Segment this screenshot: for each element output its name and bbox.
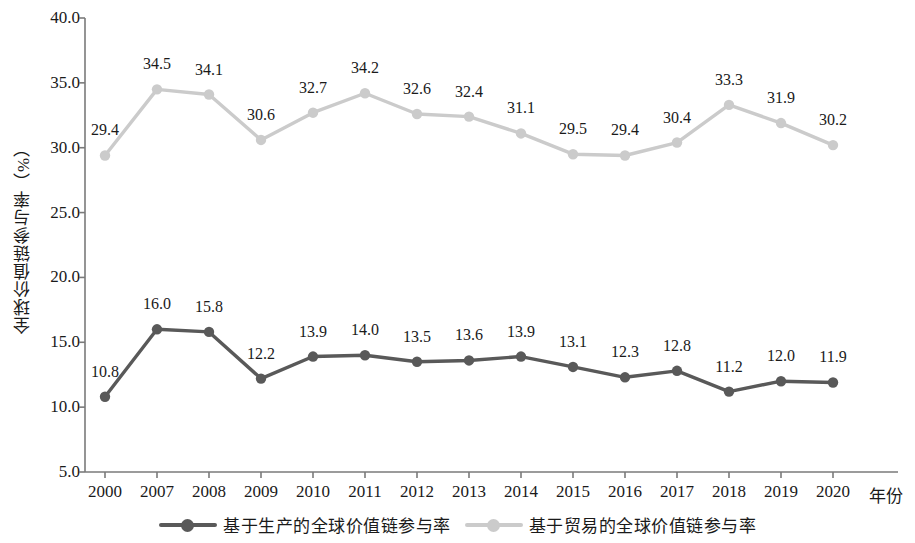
x-tick-label: 2018 — [712, 482, 746, 502]
data-point-label: 32.7 — [299, 79, 327, 97]
data-point-label: 12.2 — [247, 345, 275, 363]
x-tick-label: 2016 — [608, 482, 642, 502]
x-tick-label: 2008 — [192, 482, 226, 502]
data-point-label: 13.1 — [559, 333, 587, 351]
plot-area — [0, 0, 915, 543]
data-point-label: 13.9 — [299, 323, 327, 341]
legend-item-production[interactable]: 基于生产的全球价值链参与率 — [159, 512, 451, 537]
data-point-label: 12.0 — [767, 347, 795, 365]
data-point-label: 13.6 — [455, 326, 483, 344]
x-tick-label: 2000 — [88, 482, 122, 502]
x-tick-label: 2014 — [504, 482, 538, 502]
data-point-label: 10.8 — [91, 363, 119, 381]
data-point-label: 12.3 — [611, 343, 639, 361]
data-point-label: 16.0 — [143, 295, 171, 313]
data-point-label: 30.2 — [819, 111, 847, 129]
data-point-label: 13.9 — [507, 323, 535, 341]
legend-swatch-production — [159, 518, 217, 532]
x-tick-label: 2009 — [244, 482, 278, 502]
data-point-label: 13.5 — [403, 328, 431, 346]
chart-legend: 基于生产的全球价值链参与率 基于贸易的全球价值链参与率 — [0, 512, 915, 537]
data-point-label: 31.9 — [767, 89, 795, 107]
data-point-label: 32.4 — [455, 83, 483, 101]
x-tick-label: 2020 — [816, 482, 850, 502]
x-tick-label: 2013 — [452, 482, 486, 502]
data-point-label: 34.1 — [195, 61, 223, 79]
legend-swatch-trade — [465, 518, 523, 532]
data-point-label: 30.6 — [247, 106, 275, 124]
x-tick-label: 2007 — [140, 482, 174, 502]
data-point-label: 12.8 — [663, 337, 691, 355]
chart-container: 全球价值链参与率（%） 5.010.015.020.025.030.035.04… — [0, 0, 915, 543]
legend-label-production: 基于生产的全球价值链参与率 — [223, 512, 451, 537]
x-tick-label: 2010 — [296, 482, 330, 502]
data-point-label: 32.6 — [403, 80, 431, 98]
data-point-label: 34.5 — [143, 55, 171, 73]
data-point-label: 33.3 — [715, 71, 743, 89]
legend-item-trade[interactable]: 基于贸易的全球价值链参与率 — [465, 512, 757, 537]
data-point-label: 14.0 — [351, 321, 379, 339]
data-point-label: 11.9 — [819, 348, 846, 366]
x-axis-title: 年份 — [869, 482, 903, 507]
data-point-label: 29.5 — [559, 120, 587, 138]
data-point-label: 29.4 — [611, 121, 639, 139]
data-point-label: 31.1 — [507, 99, 535, 117]
data-point-label: 34.2 — [351, 59, 379, 77]
x-tick-label: 2011 — [348, 482, 381, 502]
x-tick-label: 2012 — [400, 482, 434, 502]
x-tick-label: 2019 — [764, 482, 798, 502]
data-point-label: 30.4 — [663, 109, 691, 127]
data-point-label: 29.4 — [91, 121, 119, 139]
legend-label-trade: 基于贸易的全球价值链参与率 — [529, 512, 757, 537]
data-point-label: 15.8 — [195, 298, 223, 316]
x-tick-label: 2017 — [660, 482, 694, 502]
data-point-label: 11.2 — [715, 358, 742, 376]
x-tick-label: 2015 — [556, 482, 590, 502]
